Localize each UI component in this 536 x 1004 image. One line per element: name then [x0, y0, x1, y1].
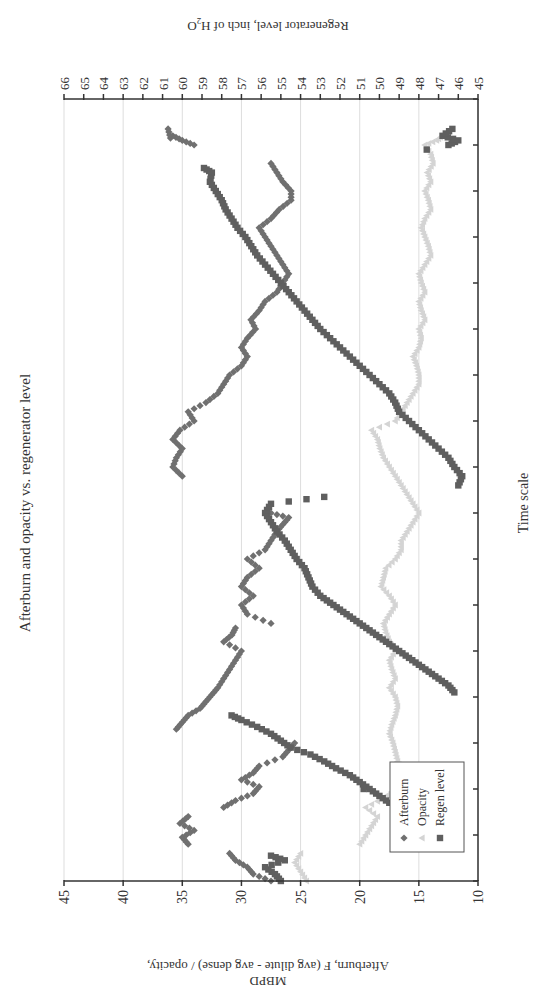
y-tick-label-right: 63	[116, 77, 131, 90]
y-tick-label-right: 57	[234, 77, 249, 91]
y-tick-label-right: 47	[432, 77, 447, 91]
y-tick-label-right: 51	[353, 77, 368, 90]
y-axis-label-left: Afterburn, F (avg dilute - avg dense) / …	[147, 959, 389, 974]
y-tick-label-right: 61	[156, 77, 171, 90]
y-tick-label-right: 52	[333, 77, 348, 90]
y-tick-label-right: 62	[136, 77, 151, 90]
y-tick-label-right: 54	[294, 77, 309, 91]
y-tick-label-right: 60	[175, 77, 190, 90]
legend: AfterburnOpacityRegen level	[390, 762, 464, 852]
legend-label: Opacity	[415, 788, 429, 826]
y-tick-label-left: 40	[116, 890, 131, 904]
y-tick-label-right: 53	[313, 77, 328, 90]
y-tick-label-right: 66	[57, 77, 72, 91]
y-tick-label-right: 46	[451, 77, 466, 91]
y-tick-label-right: 58	[215, 77, 230, 90]
y-tick-label-left: 15	[412, 890, 427, 904]
y-axis-label-left-unit: MBPD	[250, 974, 287, 989]
chart-canvas: Afterburn and opacity vs. regenerator le…	[0, 0, 536, 1004]
y-tick-label-right: 49	[392, 77, 407, 90]
x-axis-label: Time scale	[516, 473, 531, 534]
y-tick-label-left: 45	[57, 890, 72, 904]
y-tick-label-left: 30	[234, 890, 249, 904]
y-tick-label-right: 64	[96, 77, 111, 91]
y-tick-label-left: 35	[175, 890, 190, 904]
rotated-chart-group: Afterburn and opacity vs. regenerator le…	[0, 0, 536, 1004]
chart-figure: Afterburn and opacity vs. regenerator le…	[0, 0, 536, 1004]
y-tick-label-left: 20	[353, 890, 368, 904]
y-tick-label-right: 50	[372, 77, 387, 90]
y-tick-label-right: 45	[471, 77, 486, 90]
y-tick-label-right: 48	[412, 77, 427, 90]
y-tick-label-right: 55	[274, 77, 289, 90]
chart-title: Afterburn and opacity vs. regenerator le…	[17, 374, 33, 632]
y-tick-label-right: 56	[254, 77, 269, 91]
y-tick-label-left: 10	[471, 890, 486, 904]
y-tick-label-left: 25	[294, 890, 309, 904]
y-tick-label-right: 65	[77, 77, 92, 90]
y-tick-label-right: 59	[195, 77, 210, 90]
legend-label: Afterburn	[397, 779, 411, 826]
legend-label: Regen level	[433, 768, 447, 826]
square-marker-icon	[437, 835, 443, 841]
